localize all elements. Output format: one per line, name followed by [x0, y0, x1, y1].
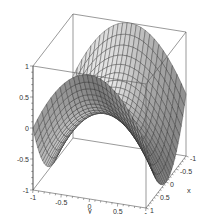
svg-text:-1: -1	[190, 155, 196, 162]
svg-text:-0.5: -0.5	[17, 156, 29, 163]
svg-text:0: 0	[170, 181, 174, 188]
z-axis: -1-0.500.51	[17, 63, 33, 194]
svg-text:0.5: 0.5	[19, 94, 29, 101]
svg-text:1: 1	[150, 207, 154, 214]
svg-text:-1: -1	[23, 187, 29, 194]
svg-text:-0.5: -0.5	[55, 199, 67, 206]
y-axis-label: y	[88, 206, 92, 214]
svg-text:1: 1	[25, 63, 29, 70]
svg-text:0.5: 0.5	[160, 194, 170, 201]
svg-text:1: 1	[144, 212, 148, 214]
svg-text:0.5: 0.5	[113, 208, 123, 215]
surface-plot: -1-0.500.51 -1-0.500.51 -1-0.500.51 y x	[0, 0, 206, 214]
svg-text:-0.5: -0.5	[180, 168, 192, 175]
svg-text:-1: -1	[30, 194, 36, 201]
x-axis-label: x	[187, 186, 191, 195]
svg-text:0: 0	[25, 125, 29, 132]
